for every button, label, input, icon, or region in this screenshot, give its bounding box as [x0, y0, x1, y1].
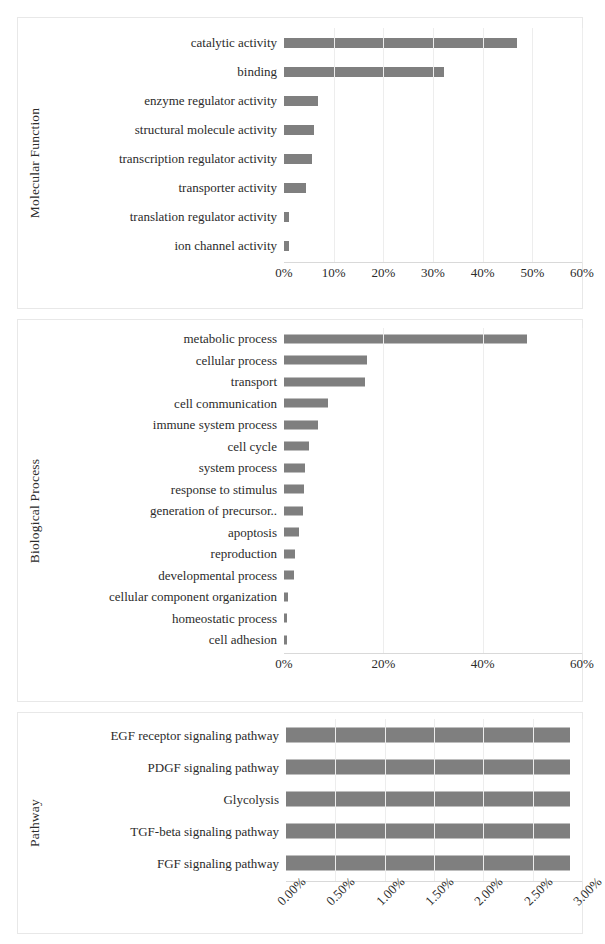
bar-row: homeostatic process [52, 608, 582, 630]
bar-row: catalytic activity [52, 28, 582, 57]
bar-track [284, 543, 582, 565]
bar-category-label: PDGF signaling pathway [52, 761, 286, 774]
bar [284, 356, 367, 365]
bar-row: generation of precursor.. [52, 500, 582, 522]
gridline [335, 719, 336, 881]
bar [284, 635, 287, 644]
pathway-axis-title: Pathway [18, 713, 52, 933]
bar-row: cell communication [52, 393, 582, 415]
bar-category-label: homeostatic process [52, 612, 284, 625]
gridline [582, 719, 583, 881]
bar-category-label: Glycolysis [52, 793, 286, 806]
bar [286, 728, 570, 743]
gridline [383, 28, 384, 262]
bar-row: response to stimulus [52, 479, 582, 501]
bar-category-label: metabolic process [52, 332, 284, 345]
bar-track [284, 565, 582, 587]
bar-category-label: binding [52, 65, 284, 78]
bar-track [284, 393, 582, 415]
bar-row: apoptosis [52, 522, 582, 544]
bar-row: binding [52, 57, 582, 86]
bar [284, 399, 328, 408]
bar-row: enzyme regulator activity [52, 86, 582, 115]
x-axis-tick-label: 10% [322, 265, 346, 281]
bar [284, 67, 444, 77]
x-axis-tick-label: 50% [520, 265, 544, 281]
molecular-function-panel: Molecular Function catalytic activitybin… [17, 17, 583, 309]
bar-track [284, 522, 582, 544]
bar [284, 592, 288, 601]
bar [284, 528, 299, 537]
bar-category-label: developmental process [52, 569, 284, 582]
gridline [483, 28, 484, 262]
bar-category-label: system process [52, 461, 284, 474]
bar-category-label: enzyme regulator activity [52, 94, 284, 107]
axis-line [284, 653, 582, 654]
gridline [385, 719, 386, 881]
x-axis-tick-label: 30% [421, 265, 445, 281]
bar [286, 856, 570, 871]
bar-track [284, 586, 582, 608]
x-axis-tick-label: 0% [275, 265, 292, 281]
bar-category-label: immune system process [52, 418, 284, 431]
bar-row: metabolic process [52, 328, 582, 350]
bar-row: cellular process [52, 350, 582, 372]
bar [284, 506, 303, 515]
gridline [383, 328, 384, 653]
bar-row: cell adhesion [52, 629, 582, 651]
bar [284, 154, 312, 164]
bar [284, 463, 305, 472]
bar [286, 824, 570, 839]
bar-row: system process [52, 457, 582, 479]
x-axis-tick-label: 2.50% [521, 874, 556, 909]
bar-category-label: EGF receptor signaling pathway [52, 729, 286, 742]
bar-row: translation regulator activity [52, 202, 582, 231]
bar-row: FGF signaling pathway [52, 847, 582, 879]
x-axis-tick-label: 20% [371, 656, 395, 672]
gridline [434, 719, 435, 881]
pathway-panel: Pathway EGF receptor signaling pathwayPD… [17, 712, 583, 934]
gridline [483, 328, 484, 653]
bar-row: Glycolysis [52, 783, 582, 815]
bar-track [284, 500, 582, 522]
bar-row: structural molecule activity [52, 115, 582, 144]
x-axis-tick-label: 3.00% [570, 874, 605, 909]
x-axis-tick-label: 20% [371, 265, 395, 281]
molecular-function-bar-rows: catalytic activitybindingenzyme regulato… [52, 28, 582, 260]
bar-track [284, 479, 582, 501]
bar-category-label: response to stimulus [52, 483, 284, 496]
bar-row: transporter activity [52, 173, 582, 202]
gridline [483, 719, 484, 881]
gridline [334, 28, 335, 262]
x-axis-tick-label: 1.00% [373, 874, 408, 909]
bar-track [284, 371, 582, 393]
bar [284, 571, 294, 580]
bar-category-label: translation regulator activity [52, 210, 284, 223]
x-axis-tick-label: 60% [570, 265, 594, 281]
bar-track [284, 414, 582, 436]
pathway-plot: EGF receptor signaling pathwayPDGF signa… [52, 713, 582, 933]
x-axis-tick-label: 0.00% [274, 874, 309, 909]
axis-title-label: Pathway [27, 799, 43, 847]
bar [284, 442, 309, 451]
bar [284, 377, 365, 386]
bar-category-label: cellular process [52, 354, 284, 367]
x-axis-tick-label: 0.50% [323, 874, 358, 909]
bar-category-label: cell communication [52, 397, 284, 410]
biological-process-panel: Biological Process metabolic processcell… [17, 319, 583, 702]
bar-row: developmental process [52, 565, 582, 587]
bar-row: PDGF signaling pathway [52, 751, 582, 783]
bar-category-label: reproduction [52, 547, 284, 560]
bar-track [284, 457, 582, 479]
bar [286, 760, 570, 775]
bar-row: cellular component organization [52, 586, 582, 608]
gridline [433, 28, 434, 262]
bar-track [284, 350, 582, 372]
bar-track [284, 436, 582, 458]
axis-title-label: Molecular Function [27, 108, 43, 218]
x-axis-tick-label: 40% [471, 265, 495, 281]
x-axis-tick-label: 40% [471, 656, 495, 672]
bar-row: immune system process [52, 414, 582, 436]
axis-title-label: Biological Process [27, 458, 43, 562]
bar-row: EGF receptor signaling pathway [52, 719, 582, 751]
